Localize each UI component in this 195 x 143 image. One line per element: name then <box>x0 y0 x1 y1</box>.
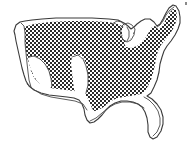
us-map-figure: Contiguous United States outline map mon… <box>0 0 195 143</box>
scan-speck-artifact <box>185 2 187 5</box>
us-map-svg: Contiguous United States outline map mon… <box>0 0 195 143</box>
